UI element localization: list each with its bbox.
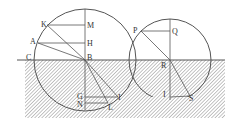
label-Q: Q — [172, 27, 178, 36]
label-P: P — [133, 26, 138, 35]
label-L: L — [108, 103, 113, 112]
label-C: C — [26, 53, 31, 62]
line-KB — [47, 25, 85, 60]
label-R: R — [161, 61, 167, 70]
label-K: K — [41, 20, 47, 29]
label-T: I — [163, 90, 166, 99]
lower-medium-hatch — [25, 60, 225, 118]
label-S: S — [189, 94, 193, 103]
label-N: N — [77, 100, 83, 109]
label-H: H — [87, 39, 93, 48]
line-AB — [38, 43, 85, 60]
line-PR — [141, 31, 170, 60]
refraction-diagram: K M A H C B G N I L P Q R I S — [0, 0, 237, 132]
label-I: I — [118, 93, 121, 102]
label-M: M — [87, 21, 94, 30]
label-B: B — [87, 53, 92, 62]
label-A: A — [30, 37, 36, 46]
